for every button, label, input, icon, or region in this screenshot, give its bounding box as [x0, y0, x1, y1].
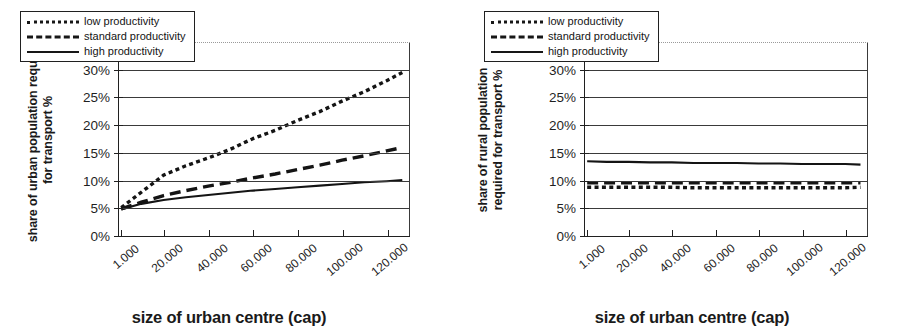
- gridline-15: [585, 153, 868, 154]
- legend-item-high-productivity: high productivity: [491, 46, 650, 57]
- series-layer-urban: [119, 42, 410, 235]
- gridline-25: [585, 97, 868, 98]
- y-tick-label-20: 20%: [83, 118, 110, 133]
- y-tick-30: [114, 70, 123, 71]
- y-tick-label-5: 5%: [90, 201, 110, 216]
- legend-rural: low productivity standard productivity h…: [484, 11, 659, 62]
- y-tick-label-25: 25%: [83, 90, 110, 105]
- legend-urban: low productivity standard productivity h…: [20, 11, 195, 62]
- y-tick-15: [114, 153, 123, 154]
- legend-label-low-productivity: low productivity: [84, 16, 159, 27]
- series-layer-rural: [585, 42, 868, 235]
- y-tick-label-10: 10%: [549, 173, 576, 188]
- y-tick-label-15: 15%: [549, 145, 576, 160]
- legend-key-dotted-icon: [27, 16, 79, 27]
- legend-key-dashed-icon: [27, 31, 79, 42]
- legend-item-standard-productivity: standard productivity: [27, 31, 186, 42]
- y-tick-label-0: 0%: [90, 229, 110, 244]
- y-tick-15: [580, 153, 589, 154]
- y-axis-title-line2: required for transport %: [491, 70, 506, 211]
- legend-label-standard-productivity: standard productivity: [548, 31, 650, 42]
- y-tick-label-20: 20%: [549, 118, 576, 133]
- legend-item-low-productivity: low productivity: [27, 16, 186, 27]
- y-tick-10: [580, 181, 589, 182]
- gridline-10: [585, 181, 868, 182]
- series-line-high-productivity: [587, 161, 860, 164]
- y-tick-5: [580, 208, 589, 209]
- gridline-5: [119, 208, 410, 209]
- plot-area-urban: 0%5%10%15%20%25%30%35%1.00020.00040.0006…: [118, 42, 410, 236]
- y-axis-title-line2: for transport %: [41, 96, 56, 184]
- y-tick-label-15: 15%: [83, 145, 110, 160]
- legend-item-low-productivity: low productivity: [491, 16, 650, 27]
- gridline-25: [119, 97, 410, 98]
- legend-key-dotted-icon: [491, 16, 543, 27]
- legend-item-high-productivity: high productivity: [27, 46, 186, 57]
- y-tick-label-0: 0%: [556, 229, 576, 244]
- gridline-30: [585, 70, 868, 71]
- gridline-30: [119, 70, 410, 71]
- series-line-low-productivity: [587, 187, 860, 188]
- y-tick-label-30: 30%: [83, 62, 110, 77]
- chart-panel-urban: share of urban population required for t…: [0, 0, 458, 335]
- gridline-15: [119, 153, 410, 154]
- legend-key-solid-icon: [491, 46, 543, 57]
- gridline-5: [585, 208, 868, 209]
- x-axis-title-rural: size of urban centre (cap): [458, 308, 916, 327]
- y-tick-label-30: 30%: [549, 62, 576, 77]
- plot-area-rural: 0%5%10%15%20%25%30%35%1.00020.00040.0006…: [584, 42, 868, 236]
- y-tick-label-25: 25%: [549, 90, 576, 105]
- chart-panel-rural: share of rural population required for t…: [458, 0, 916, 335]
- y-tick-30: [580, 70, 589, 71]
- gridline-10: [119, 181, 410, 182]
- y-tick-25: [114, 97, 123, 98]
- series-line-low-productivity: [121, 72, 402, 207]
- x-axis-title-urban: size of urban centre (cap): [0, 308, 458, 327]
- legend-item-standard-productivity: standard productivity: [491, 31, 650, 42]
- two-panel-line-chart-figure: share of urban population required for t…: [0, 0, 916, 335]
- y-tick-20: [114, 125, 123, 126]
- legend-key-dashed-icon: [491, 31, 543, 42]
- y-tick-5: [114, 208, 123, 209]
- gridline-20: [119, 125, 410, 126]
- legend-key-solid-icon: [27, 46, 79, 57]
- legend-label-low-productivity: low productivity: [548, 16, 623, 27]
- y-axis-title-line1: share of urban population required: [26, 38, 41, 242]
- legend-label-high-productivity: high productivity: [84, 46, 164, 57]
- y-tick-10: [114, 181, 123, 182]
- legend-label-standard-productivity: standard productivity: [84, 31, 186, 42]
- y-tick-label-10: 10%: [83, 173, 110, 188]
- y-tick-25: [580, 97, 589, 98]
- legend-label-high-productivity: high productivity: [548, 46, 628, 57]
- y-tick-label-5: 5%: [556, 201, 576, 216]
- gridline-20: [585, 125, 868, 126]
- y-tick-20: [580, 125, 589, 126]
- y-axis-title-line1: share of rural population: [476, 68, 491, 213]
